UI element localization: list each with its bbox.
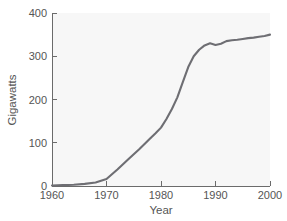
y-tick-label-300: 300 [29, 50, 47, 62]
y-tick-label-400: 400 [29, 7, 47, 19]
y-axis-title: Gigawatts [6, 74, 18, 125]
line-chart: 400 300 200 100 0 1960 1970 1980 1990 20… [0, 0, 287, 221]
y-tick-label-200: 200 [29, 94, 47, 106]
x-tick-label-1970: 1970 [94, 189, 118, 201]
x-tick-label-2000: 2000 [258, 189, 282, 201]
x-tick-label-1960: 1960 [40, 189, 64, 201]
x-tick-label-1980: 1980 [149, 189, 173, 201]
y-tick-label-100: 100 [29, 137, 47, 149]
x-tick-label-1990: 1990 [203, 189, 227, 201]
chart-figure: 400 300 200 100 0 1960 1970 1980 1990 20… [0, 0, 287, 221]
x-axis-title: Year [149, 204, 172, 216]
